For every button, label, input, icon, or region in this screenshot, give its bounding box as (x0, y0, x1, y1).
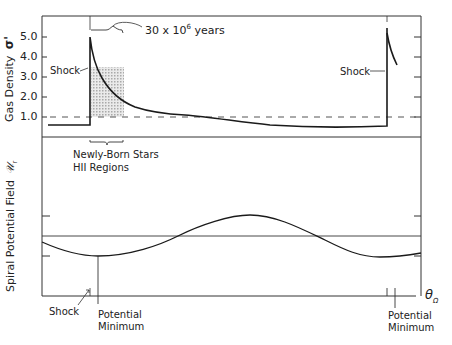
potential-label-text: Spiral Potential Field (4, 180, 17, 292)
shock-label-left: Shock (50, 65, 80, 76)
potential-symbol-sub: r (11, 161, 19, 164)
time-span-unit: years (191, 24, 225, 37)
potential-minimum-right-line2: Minimum (388, 322, 434, 333)
theta-symbol: θ (425, 287, 433, 302)
density-label-text: Gas Density (3, 56, 16, 122)
shock-lines (90, 16, 387, 30)
tick-3: 3.0 (20, 71, 38, 82)
potential-symbol: 𝒰 (4, 164, 17, 174)
shock-label-bottom: Shock (49, 306, 79, 317)
potential-minimum-left-line2: Minimum (98, 321, 144, 332)
tick-2: 2.0 (20, 91, 38, 102)
theta-axis-label: θΩ (425, 289, 438, 307)
tick-1: 1.0 (20, 111, 38, 122)
stars-brace (90, 140, 123, 145)
density-symbol: σ' (2, 36, 16, 49)
time-span-leader (113, 22, 142, 27)
time-span-label: 30 x 106 years (145, 22, 225, 36)
theta-subscript: Ω (433, 297, 438, 305)
time-span-bracket (91, 26, 123, 33)
potential-y-axis-label: Spiral Potential Field 𝒰r (4, 161, 19, 292)
hii-regions-label: HII Regions (73, 162, 129, 173)
density-y-axis-label: Gas Density σ' (2, 36, 16, 122)
newly-born-stars-label: Newly-Born Stars (73, 149, 159, 160)
diagram-canvas (0, 0, 452, 345)
shock-arrow-bottom (78, 290, 89, 305)
tick-5: 5.0 (20, 31, 38, 42)
time-span-base: 30 x 10 (145, 24, 187, 37)
shock-arrow-left (80, 68, 88, 71)
gas-density-curve-right (387, 33, 397, 65)
shock-label-right: Shock (340, 66, 370, 77)
potential-minimum-left-line1: Potential (98, 309, 142, 320)
potential-minimum-right-line1: Potential (388, 310, 432, 321)
star-formation-shaded-region (91, 67, 124, 117)
tick-4: 4.0 (20, 51, 38, 62)
